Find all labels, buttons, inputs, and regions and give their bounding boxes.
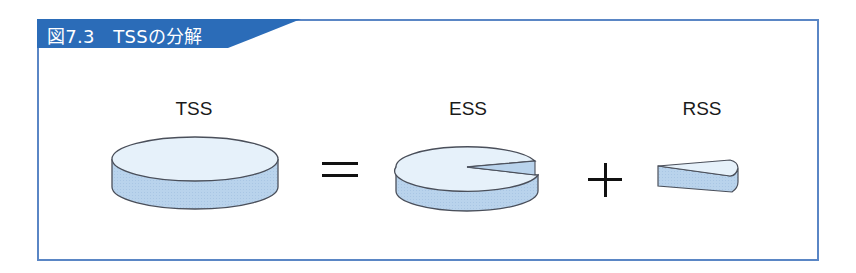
figure-title: 図7.3 TSSの分解 [47, 22, 203, 48]
rss-wedge-icon [656, 156, 740, 196]
ess-disc-icon [392, 145, 542, 217]
equals-operator [322, 162, 358, 177]
figure-title-tab: 図7.3 TSSの分解 [37, 19, 301, 48]
rss-label: RSS [672, 98, 732, 120]
tss-label: TSS [164, 98, 224, 120]
tss-disc-icon [108, 135, 282, 215]
ess-label: ESS [438, 98, 498, 120]
plus-operator [588, 163, 622, 197]
